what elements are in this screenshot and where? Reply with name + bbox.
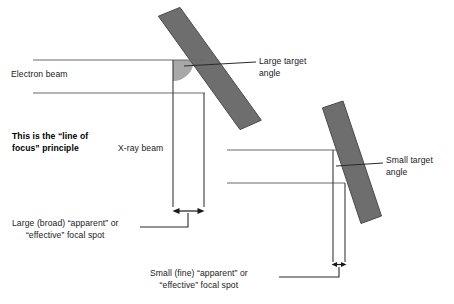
label-large-focal-spot: Large (broad) “apparent” or“effective” f… [12,218,118,241]
label-small-target-angle-line2: angle [386,167,407,177]
label-small-focal-spot-line2: “effective” focal spot [160,280,239,290]
label-xray-beam: X-ray beam [118,143,163,155]
large-focal-spot-leader [140,213,188,227]
label-line-of-focus-principle: This is the “line offocus” principle [12,131,116,154]
small-focal-spot-arrow [332,262,347,267]
small-focal-spot-leader [279,267,339,277]
label-small-target-angle: Small targetangle [386,155,433,178]
large-target-angle-wedge [173,60,194,81]
label-small-focal-spot-line1: Small (fine) “apparent” or [150,268,248,278]
label-large-target-angle-line1: Large target [259,56,306,66]
label-large-focal-spot-line1: Large (broad) “apparent” or [12,218,118,228]
label-large-focal-spot-line2: “effective” focal spot [26,230,105,240]
label-large-target-angle-line2: angle [259,68,280,78]
label-small-focal-spot: Small (fine) “apparent” or“effective” fo… [150,268,248,291]
xray-line-of-focus-diagram: Electron beam Large targetangle This is … [0,0,454,304]
label-principle-line1: This is the “line of [12,131,88,141]
label-principle-line2: focus” principle [12,143,79,153]
label-small-target-angle-line1: Small target [386,155,433,165]
right-anode-target [322,101,381,224]
label-electron-beam: Electron beam [11,69,68,81]
label-large-target-angle: Large targetangle [259,56,306,79]
